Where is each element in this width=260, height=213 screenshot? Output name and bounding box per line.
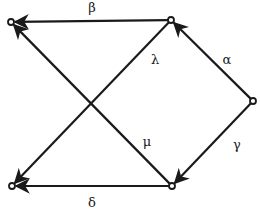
edge-alpha: [174, 23, 251, 99]
node-right: [250, 98, 256, 104]
node-bottom-right: [169, 183, 175, 189]
edge-label-gamma: γ: [233, 137, 241, 152]
node-top-right: [168, 17, 174, 23]
node-top-left: [8, 19, 14, 25]
edge-beta: [15, 20, 168, 22]
edge-label-alpha: α: [223, 52, 232, 67]
edge-label-mu: μ: [143, 134, 151, 149]
node-bottom-left: [9, 183, 15, 189]
diagram-canvas: βαλμγδ: [0, 0, 260, 213]
edge-label-lambda: λ: [151, 52, 159, 67]
edge-label-delta: δ: [88, 195, 96, 210]
edge-label-beta: β: [88, 0, 96, 15]
